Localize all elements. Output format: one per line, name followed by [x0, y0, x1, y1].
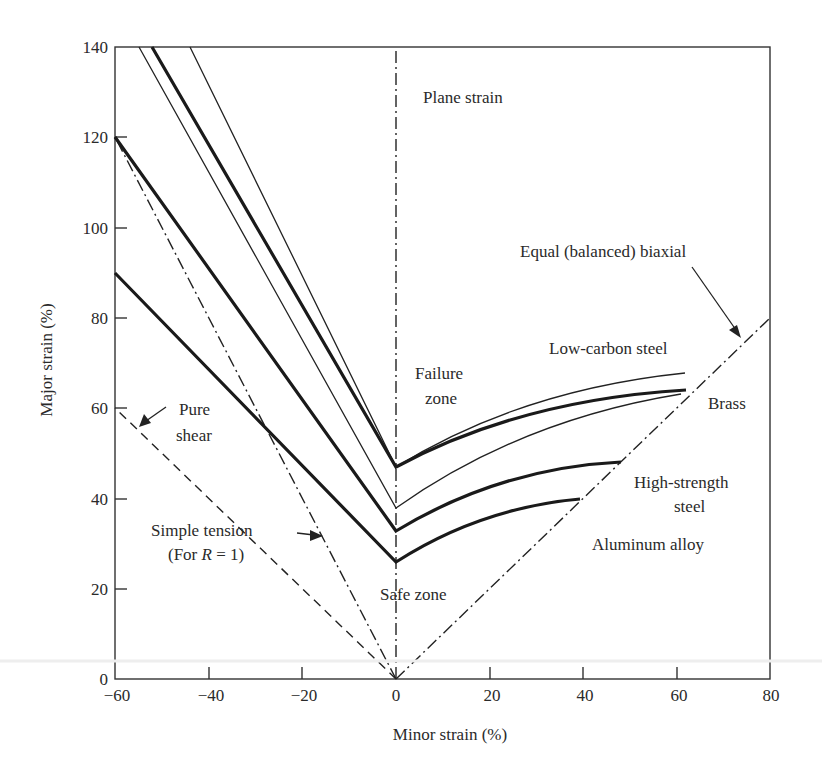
y-tick-120: 120 [83, 128, 109, 147]
biaxial-arrow [692, 267, 736, 330]
y-tick-60: 60 [91, 399, 108, 418]
x-axis-title: Minor strain (%) [393, 725, 507, 744]
label-equal-biaxial: Equal (balanced) biaxial [520, 242, 686, 261]
biaxial-arrowhead-icon [729, 325, 741, 338]
y-axis-ticks [115, 137, 127, 589]
label-pure-shear-1: Pure [179, 400, 210, 419]
x-tick-60: 60 [671, 686, 688, 705]
label-aluminum-alloy: Aluminum alloy [592, 535, 704, 554]
label-simple-tension-1: Simple tension [151, 521, 253, 540]
y-tick-100: 100 [83, 219, 109, 238]
label-simple-tension-2: (For R = 1) [168, 545, 244, 564]
y-tick-40: 40 [91, 490, 108, 509]
y-tick-80: 80 [91, 309, 108, 328]
x-tick-neg20: −20 [291, 686, 318, 705]
y-tick-140: 140 [83, 38, 109, 57]
label-failure-zone-1: Failure [415, 364, 463, 383]
label-safe-zone: Safe zone [380, 585, 447, 604]
label-plane-strain: Plane strain [423, 88, 503, 107]
x-tick-labels: −60 −40 −20 0 20 40 60 80 [104, 686, 780, 705]
x-tick-80: 80 [763, 686, 780, 705]
label-brass: Brass [708, 394, 746, 413]
pure-shear-line [115, 408, 396, 679]
label-high-strength-1: High-strength [634, 473, 729, 492]
label-failure-zone-2: zone [425, 389, 457, 408]
x-tick-0: 0 [392, 686, 401, 705]
x-tick-neg60: −60 [104, 686, 131, 705]
x-tick-40: 40 [577, 686, 594, 705]
x-tick-20: 20 [484, 686, 501, 705]
label-pure-shear-2: shear [176, 426, 212, 445]
y-tick-20: 20 [91, 580, 108, 599]
y-tick-labels: 0 20 40 60 80 100 120 140 [83, 38, 109, 689]
forming-limit-diagram: 0 20 40 60 80 100 120 140 −60 −40 −20 0 … [0, 0, 822, 775]
x-axis-ticks [209, 667, 677, 679]
curve-brass [139, 47, 681, 508]
simple-tension-line [115, 137, 396, 679]
pure-shear-arrow [146, 407, 166, 421]
label-low-carbon-steel: Low-carbon steel [549, 339, 668, 358]
label-high-strength-2: steel [674, 497, 705, 516]
y-axis-title: Major strain (%) [37, 303, 56, 416]
x-tick-neg40: −40 [198, 686, 225, 705]
curve-high-strength-steel [115, 137, 621, 531]
pure-shear-arrowhead-icon [139, 414, 151, 427]
simple-tension-arrowhead-icon [310, 530, 323, 541]
